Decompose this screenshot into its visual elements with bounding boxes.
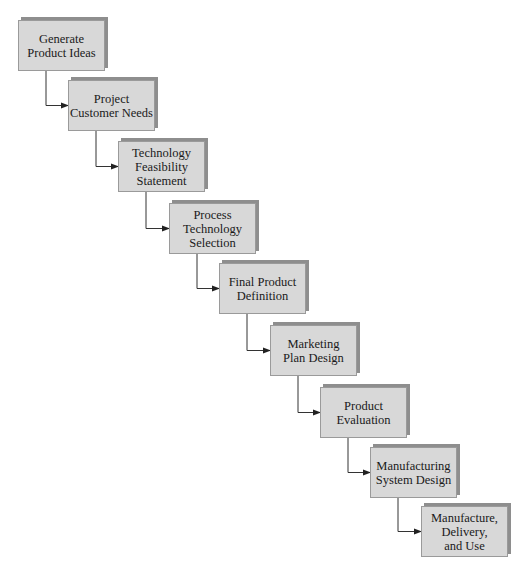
step-1-generate-product-ideas: Generate Product Ideas [18,20,105,71]
step-label: Final Product Definition [229,275,297,303]
step-box: Final Product Definition [219,263,306,314]
step-7-product-evaluation: Product Evaluation [320,387,407,438]
step-4-process-technology-selection: Process Technology Selection [169,203,256,254]
step-6-marketing-plan-design: Marketing Plan Design [270,325,357,376]
step-label: Manufacturing System Design [376,459,451,487]
step-label: Technology Feasibility Statement [132,146,191,188]
step-box: Generate Product Ideas [18,20,105,71]
step-box: Product Evaluation [320,387,407,438]
connector-arrow [197,254,219,289]
step-label: Product Evaluation [336,399,390,427]
connector-arrow [348,438,370,473]
step-label: Manufacture, Delivery, and Use [431,511,498,553]
step-label: Process Technology Selection [183,208,242,250]
connector-arrow [46,71,68,106]
step-2-project-customer-needs: Project Customer Needs [68,80,155,131]
step-3-technology-feasibility-statement: Technology Feasibility Statement [118,141,205,192]
step-9-manufacture-delivery-use: Manufacture, Delivery, and Use [421,506,508,557]
step-box: Technology Feasibility Statement [118,141,205,192]
step-box: Process Technology Selection [169,203,256,254]
step-label: Generate Product Ideas [27,32,95,60]
step-box: Manufacture, Delivery, and Use [421,506,508,557]
connector-arrow [398,498,421,532]
step-box: Project Customer Needs [68,80,155,131]
step-box: Marketing Plan Design [270,325,357,376]
flowchart: Generate Product Ideas Project Customer … [0,0,523,571]
connector-arrow [146,192,169,229]
step-8-manufacturing-system-design: Manufacturing System Design [370,447,457,498]
step-box: Manufacturing System Design [370,447,457,498]
connector-arrow [298,376,320,413]
step-5-final-product-definition: Final Product Definition [219,263,306,314]
connector-arrow [96,131,118,167]
step-label: Project Customer Needs [70,92,153,120]
connector-arrow [247,314,270,351]
step-label: Marketing Plan Design [283,337,344,365]
